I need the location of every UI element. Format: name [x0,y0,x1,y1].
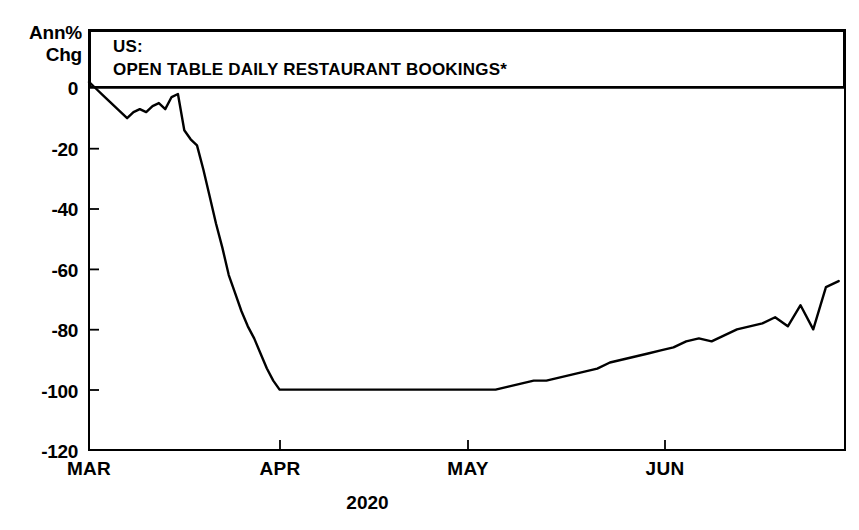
chart-title-line2: OPEN TABLE DAILY RESTAURANT BOOKINGS* [113,60,507,80]
plot-frame [89,30,845,450]
y-axis-ticks [89,149,99,390]
chart-container: Ann% Chg 0 -20 -40 -60 -80 -100 -120 MAR… [0,0,859,530]
x-axis-ticks [280,440,665,450]
data-series-line [89,82,839,390]
chart-title-box: US: OPEN TABLE DAILY RESTAURANT BOOKINGS… [89,30,845,88]
chart-title-line1: US: [113,37,143,57]
